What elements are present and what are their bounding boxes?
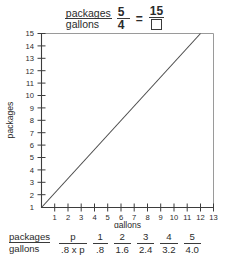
- ratio-cell-numerator: 5: [184, 231, 201, 244]
- unknown-ratio-numerator: 15: [149, 5, 164, 18]
- y-axis-tick-labels: 15 14 13 12 11 10 9 8 7 6 5 4 3 2 1: [26, 30, 34, 212]
- equals-sign: =: [135, 12, 144, 26]
- ratio-table-column: p .8 x p: [59, 231, 86, 255]
- graph-svg: 15 14 13 12 11 10 9 8 7 6 5 4 3 2 1: [0, 30, 229, 228]
- y-tick-label: 11: [26, 79, 34, 88]
- ratio-cell-denominator: 3.2: [160, 244, 177, 256]
- line-graph: 15 14 13 12 11 10 9 8 7 6 5 4 3 2 1: [0, 30, 229, 228]
- known-ratio-fraction: 5 4: [117, 6, 130, 31]
- x-tick-label: 11: [183, 213, 191, 222]
- x-tick-label: 2: [66, 213, 70, 222]
- ratio-cell-denominator: 1.6: [114, 244, 131, 256]
- x-tick-label: 9: [159, 213, 163, 222]
- x-tick-label: 1: [53, 213, 57, 222]
- y-tick-label: 2: [30, 191, 34, 200]
- ratio-table-header-numerator: packages: [9, 231, 50, 243]
- y-tick-label: 10: [26, 91, 34, 100]
- x-tick-label: 3: [79, 213, 83, 222]
- ratio-table-cells: p .8 x p 1 .8 2 1.6 3 2.4 4 3.2 5 4.0: [59, 231, 201, 255]
- x-tick-label: 5: [106, 213, 110, 222]
- ratio-cell-numerator: p: [59, 231, 86, 244]
- y-tick-label: 1: [30, 203, 34, 212]
- ratio-table-column: 2 1.6: [114, 231, 131, 255]
- ratio-cell-denominator: 4.0: [184, 244, 201, 256]
- plot-frame: [42, 34, 214, 208]
- ratio-table-column: 1 .8: [93, 231, 108, 255]
- ratio-cell-numerator: 1: [93, 231, 108, 244]
- unknown-ratio-fraction: 15: [149, 5, 164, 32]
- ratio-cell-denominator: 2.4: [137, 244, 154, 256]
- known-ratio-numerator: 5: [117, 6, 130, 19]
- proportion-expression-row: packages gallons 5 4 = 15: [65, 5, 164, 32]
- ratio-table-header-denominator: gallons: [9, 243, 50, 254]
- y-tick-label: 8: [30, 116, 34, 125]
- y-tick-label: 4: [30, 166, 34, 175]
- ratio-table-column: 3 2.4: [137, 231, 154, 255]
- x-tick-label: 13: [209, 213, 217, 222]
- ratio-label-fraction: packages gallons: [65, 8, 112, 30]
- x-tick-label: 8: [145, 213, 149, 222]
- proportion-expression: packages gallons 5 4 = 15: [0, 5, 229, 33]
- ratio-table: packages gallons p .8 x p 1 .8 2 1.6 3 2…: [0, 231, 229, 265]
- ratio-table-column: 4 3.2: [160, 231, 177, 255]
- y-tick-label: 12: [26, 67, 34, 76]
- y-tick-label: 6: [30, 141, 34, 150]
- ratio-cell-numerator: 4: [160, 231, 177, 244]
- y-tick-label: 13: [26, 54, 34, 63]
- plot-axes: [42, 34, 214, 208]
- ratio-cell-numerator: 3: [137, 231, 154, 244]
- y-tick-label: 5: [30, 153, 34, 162]
- y-tick-label: 9: [30, 104, 34, 113]
- ratio-table-header: packages gallons: [9, 231, 50, 254]
- y-tick-label: 7: [30, 129, 34, 138]
- proportion-line: [42, 34, 201, 208]
- x-tick-label: 4: [92, 213, 96, 222]
- ratio-table-column: 5 4.0: [184, 231, 201, 255]
- x-tick-label: 10: [170, 213, 178, 222]
- y-axis-title: packages: [5, 102, 15, 139]
- y-tick-label: 15: [26, 30, 34, 38]
- ratio-label-denominator: gallons: [65, 19, 100, 30]
- ratio-cell-denominator: .8 x p: [59, 244, 86, 256]
- y-tick-label: 14: [26, 42, 34, 51]
- ratio-cell-denominator: .8: [94, 244, 106, 256]
- y-tick-label: 3: [30, 178, 34, 187]
- answer-box-icon[interactable]: [151, 19, 162, 30]
- x-axis-title: gallons: [114, 220, 141, 228]
- x-tick-label: 12: [196, 213, 204, 222]
- ratio-cell-numerator: 2: [114, 231, 131, 244]
